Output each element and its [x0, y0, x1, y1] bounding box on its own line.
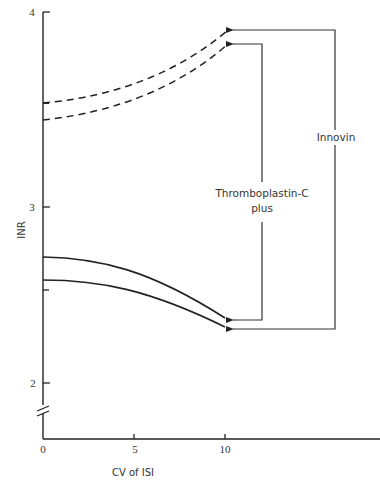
innovin-bracket-top	[233, 30, 335, 130]
x-tick-label-5: 5	[132, 443, 138, 455]
innovin-label: Innovin	[317, 131, 356, 143]
curve-innovin-upper-dashed	[43, 30, 228, 103]
x-tick-label-10: 10	[220, 443, 232, 455]
y-axis-title: INR	[16, 221, 27, 238]
x-axis-title: CV of ISI	[112, 467, 154, 478]
y-tick-label-4: 4	[29, 6, 35, 18]
thromboplastin-bracket-top	[233, 44, 262, 182]
thromboplastin-label-line2: plus	[251, 202, 273, 214]
thromboplastin-label-line1: Thromboplastin-C	[214, 187, 308, 199]
y-tick-label-2: 2	[30, 377, 36, 389]
innovin-bracket-bottom	[233, 145, 335, 329]
annotation-innovin: Innovin	[233, 30, 355, 329]
axes: 4 3 2 0 5 10 CV of ISI INR	[16, 6, 380, 478]
curve-thromboplastin-upper-dashed	[43, 44, 228, 120]
curve-innovin-lower-solid	[43, 280, 225, 327]
series	[43, 30, 228, 327]
y-tick-label-3: 3	[29, 201, 35, 213]
curve-thromboplastin-lower-solid	[43, 257, 225, 318]
x-tick-label-0: 0	[40, 443, 46, 455]
annotation-thromboplastin: Thromboplastin-C plus	[214, 44, 308, 320]
thromboplastin-bracket-bottom	[233, 222, 262, 320]
inr-vs-cv-chart: 4 3 2 0 5 10 CV of ISI INR Innovin Throm…	[0, 0, 380, 490]
